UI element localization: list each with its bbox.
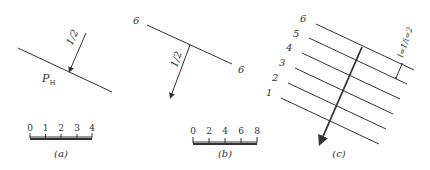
panel-a: 1/2 PH 0 1 2 3 4 (a) <box>18 28 112 159</box>
contour-label-right: 6 <box>238 64 245 75</box>
contour-line-6 <box>147 25 232 64</box>
scale-tick-label: 2 <box>206 126 212 136</box>
scale-tick-label: 1 <box>43 123 49 133</box>
contour-label-2: 2 <box>271 72 278 83</box>
scale-tick-label: 3 <box>74 123 80 133</box>
plane-trace-line <box>18 48 112 92</box>
caption-c: (c) <box>332 148 346 159</box>
contour-line-4 <box>302 53 400 99</box>
scale-bar-b: 0 2 4 6 8 <box>190 126 260 144</box>
contour-line-3 <box>295 68 393 114</box>
panel-c: 6 5 4 3 2 1 l=1/i=2 (c) <box>266 13 415 159</box>
scale-tick-label: 8 <box>254 126 260 136</box>
scale-tick-label: 4 <box>222 126 228 136</box>
slope-label: 1/2 <box>168 50 183 69</box>
scale-tick-label: 0 <box>27 123 33 133</box>
interval-label: l=1/i=2 <box>396 26 414 59</box>
contour-label-left: 6 <box>133 15 140 26</box>
caption-b: (b) <box>218 148 232 159</box>
scale-tick-label: 4 <box>89 123 95 133</box>
contour-label-5: 5 <box>293 28 299 39</box>
panel-b: 6 6 1/2 0 2 4 6 8 (b) <box>133 15 260 159</box>
contour-line-5 <box>309 38 407 84</box>
scale-tick-label: 2 <box>58 123 64 133</box>
diagram-canvas: 1/2 PH 0 1 2 3 4 (a) 6 6 1/2 0 2 4 <box>0 0 430 170</box>
plane-label: PH <box>41 72 56 87</box>
contour-label-3: 3 <box>279 57 285 68</box>
contour-label-4: 4 <box>285 42 292 53</box>
scale-bar-a: 0 1 2 3 4 <box>27 123 95 139</box>
interval-dimension-line <box>396 64 402 78</box>
slope-label: 1/2 <box>64 28 81 47</box>
scale-tick-label: 6 <box>238 126 244 136</box>
scale-tick-label: 0 <box>190 126 196 136</box>
contour-label-6: 6 <box>300 13 307 24</box>
caption-a: (a) <box>54 148 68 159</box>
contour-label-1: 1 <box>266 87 272 98</box>
